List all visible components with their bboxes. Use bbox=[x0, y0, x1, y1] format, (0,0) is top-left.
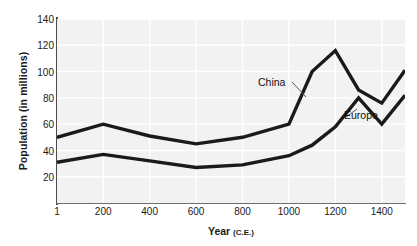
y-tick-20: 20 bbox=[20, 173, 54, 183]
x-tick-1: 1 bbox=[37, 206, 77, 217]
x-tick-400: 400 bbox=[130, 206, 170, 217]
y-tick-100: 100 bbox=[20, 68, 54, 78]
x-tick-600: 600 bbox=[176, 206, 216, 217]
y-tick-60: 60 bbox=[20, 120, 54, 130]
y-tick-80: 80 bbox=[20, 94, 54, 104]
x-tick-1000: 1000 bbox=[269, 206, 309, 217]
x-axis-title-suffix: (C.E.) bbox=[233, 228, 254, 237]
series-label-china: China bbox=[258, 76, 285, 88]
x-axis-title: Year (C.E.) bbox=[57, 225, 405, 237]
series-label-europe: Europe bbox=[344, 109, 378, 121]
population-line-chart: Population (in millions) 140 120 100 80 … bbox=[0, 0, 417, 246]
y-tick-120: 120 bbox=[20, 41, 54, 51]
x-tick-200: 200 bbox=[83, 206, 123, 217]
x-tick-800: 800 bbox=[222, 206, 262, 217]
y-tick-140: 140 bbox=[20, 15, 54, 25]
x-tick-1200: 1200 bbox=[315, 206, 355, 217]
y-tick-40: 40 bbox=[20, 147, 54, 157]
x-axis-line bbox=[56, 203, 406, 204]
x-axis-title-main: Year bbox=[208, 225, 230, 237]
x-tick-1400: 1400 bbox=[362, 206, 402, 217]
series-line-europe bbox=[57, 95, 405, 167]
